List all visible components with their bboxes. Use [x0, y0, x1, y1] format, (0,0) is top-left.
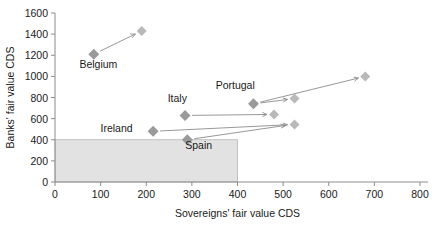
- y-tick-label: 0: [42, 176, 48, 188]
- x-tick-label: 500: [274, 188, 292, 200]
- arrow-head-portugal-short: [283, 98, 288, 99]
- scatter-chart: 0100200300400500600700800020040060080010…: [0, 0, 438, 230]
- point-label-spain: Spain: [185, 139, 212, 151]
- y-tick-label: 1600: [25, 7, 49, 19]
- end-marker-belgium: [137, 26, 147, 36]
- x-tick-label: 200: [137, 188, 155, 200]
- x-tick-label: 400: [229, 188, 247, 200]
- x-tick-label: 600: [320, 188, 338, 200]
- x-tick-label: 700: [366, 188, 384, 200]
- x-tick-label: 800: [411, 188, 429, 200]
- y-axis-title: Banks' fair value CDS: [4, 47, 16, 149]
- y-tick-label: 1000: [25, 70, 49, 82]
- y-tick-label: 800: [30, 92, 48, 104]
- x-tick-label: 300: [183, 188, 201, 200]
- arrow-line-italy: [192, 114, 267, 115]
- arrow-line-portugal: [260, 78, 358, 102]
- start-marker-italy: [180, 110, 191, 121]
- x-axis-title: Sovereigns' fair value CDS: [175, 207, 300, 219]
- y-tick-label: 400: [30, 134, 48, 146]
- y-tick-label: 1400: [25, 28, 49, 40]
- point-label-belgium: Belgium: [79, 58, 117, 70]
- end-marker-portugal: [360, 71, 370, 81]
- arrow-head-portugal: [354, 77, 359, 78]
- chart-canvas: 0100200300400500600700800020040060080010…: [0, 0, 438, 230]
- y-tick-label: 1200: [25, 49, 49, 61]
- x-tick-label: 0: [52, 188, 58, 200]
- point-label-italy: Italy: [168, 92, 188, 104]
- x-tick-label: 100: [92, 188, 110, 200]
- point-label-ireland: Ireland: [101, 122, 133, 134]
- arrow-line-belgium: [100, 34, 135, 51]
- y-tick-label: 600: [30, 113, 48, 125]
- start-marker-ireland: [148, 126, 159, 137]
- point-label-portugal: Portugal: [216, 79, 255, 91]
- y-tick-label: 200: [30, 155, 48, 167]
- end-marker-italy: [269, 109, 279, 119]
- start-marker-portugal: [248, 98, 259, 109]
- end-marker-ireland: [290, 119, 300, 129]
